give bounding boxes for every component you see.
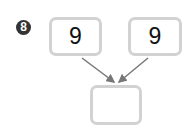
- result-answer-box[interactable]: [90, 85, 142, 125]
- arrow-down-right-icon: [82, 58, 114, 82]
- arrow-down-left-icon: [119, 58, 148, 82]
